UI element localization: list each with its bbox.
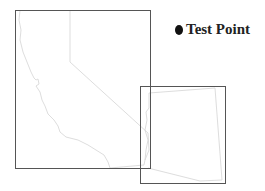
test-point-marker-icon — [175, 25, 183, 35]
california-boundary — [19, 10, 149, 168]
legend-label-test-point: Test Point — [186, 22, 250, 37]
california-inset-frame — [16, 11, 151, 169]
arizona-boundary — [145, 88, 222, 181]
legend: Test Point — [175, 22, 250, 37]
